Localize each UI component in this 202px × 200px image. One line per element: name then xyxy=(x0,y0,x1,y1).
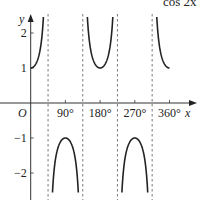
y-tick-label: −2 xyxy=(14,166,27,180)
curve-branch xyxy=(31,17,44,68)
title-fragment: cos 2x xyxy=(163,0,197,9)
x-tick-label: 270° xyxy=(123,106,146,120)
curve-branch xyxy=(157,17,170,68)
x-axis-label: x xyxy=(184,106,191,120)
x-tick-label: 180° xyxy=(89,106,112,120)
x-tick-label: 360° xyxy=(158,106,181,120)
y-axis-label: y xyxy=(18,12,25,26)
y-axis-arrow-icon xyxy=(28,14,34,22)
y-tick-label: 2 xyxy=(21,26,27,40)
origin-label: O xyxy=(18,106,27,120)
x-tick-label: 90° xyxy=(57,106,74,120)
curve-branch xyxy=(52,138,78,193)
y-tick-label: 1 xyxy=(21,61,27,75)
curve-branch xyxy=(122,138,148,193)
y-tick-label: −1 xyxy=(14,131,27,145)
secant-graph: cos 2x 90°180°270°360°21−1−2 x y O xyxy=(0,0,202,200)
curves xyxy=(31,17,170,193)
curve-branch xyxy=(87,17,112,68)
